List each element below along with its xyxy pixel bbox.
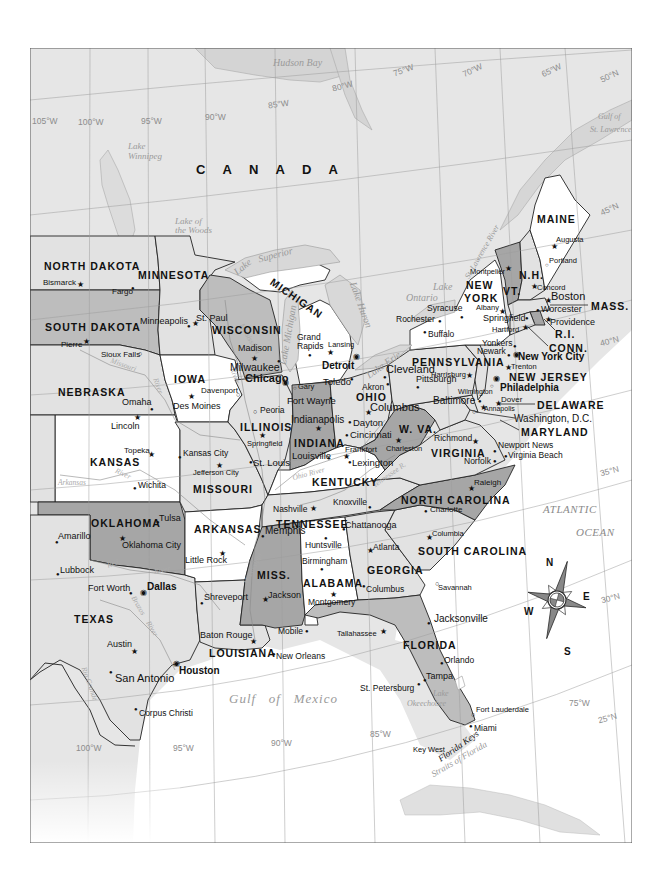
city-label-miami: Miami <box>474 724 497 733</box>
city-label-savannah: Savannah <box>438 584 472 592</box>
city-label-annapolis: Annapolis <box>484 405 515 412</box>
city-label-lincoln: Lincoln <box>111 422 140 431</box>
compass-east-label: E <box>583 591 590 602</box>
city-label-detroit: Detroit <box>322 361 354 371</box>
city-label-richmond: Richmond <box>434 434 472 443</box>
city-label-nashville: Nashville <box>273 505 308 514</box>
capital-star-icon: ★ <box>188 393 195 401</box>
capital-star-icon: ★ <box>327 349 334 357</box>
city-label-kansas-city: Kansas City <box>183 449 228 458</box>
city-label-grand-rapids-2: Rapids <box>297 342 323 351</box>
city-label-corpus-christi: Corpus Christi <box>139 709 193 718</box>
city-dot-icon: ● <box>424 508 428 514</box>
city-label-minneapolis: Minneapolis <box>140 317 188 326</box>
city-label-chicago: Chicago <box>245 373 288 384</box>
city-label-montpelier: Montpelier <box>470 268 505 276</box>
city-label-little-rock: Little Rock <box>185 556 227 565</box>
city-label-st-petersburg: St. Petersburg <box>360 684 414 693</box>
city-dot-icon: ● <box>525 315 529 321</box>
city-dot-icon: ● <box>493 448 497 454</box>
city-dot-icon: ● <box>178 454 182 460</box>
city-label-new-orleans: New Orleans <box>276 652 325 661</box>
compass-north-label: N <box>546 557 553 568</box>
major-city-icon: ◉ <box>493 375 500 383</box>
city-label-rochester: Rochester <box>396 315 435 324</box>
city-dot-icon: ● <box>368 504 372 510</box>
city-label-st-louis: St. Louis <box>253 458 290 468</box>
town-circle-icon: ○ <box>446 750 450 756</box>
city-label-wilmington: Wilmington <box>458 388 493 395</box>
town-circle-icon: ○ <box>253 408 257 415</box>
city-dot-icon: ● <box>386 381 390 387</box>
leader-lines <box>0 0 667 882</box>
city-label-san-antonio: San Antonio <box>115 673 174 684</box>
city-label-chattanooga: Chattanooga <box>345 521 397 530</box>
city-label-mobile: Mobile <box>278 627 303 636</box>
city-label-tampa: Tampa <box>426 672 453 681</box>
city-label-norfolk: Norfolk <box>464 457 491 466</box>
city-label-tulsa: Tulsa <box>159 514 181 523</box>
city-dot-icon: ● <box>507 352 511 358</box>
city-label-columbus-ga: Columbus <box>366 585 404 594</box>
city-label-dover: Dover <box>501 396 522 404</box>
city-dot-icon: ● <box>133 485 137 491</box>
city-dot-icon: ● <box>536 307 540 313</box>
city-label-yonkers: Yonkers <box>482 339 512 348</box>
capital-star-icon: ★ <box>310 505 317 513</box>
city-dot-icon: ● <box>305 628 309 634</box>
city-dot-icon: ● <box>423 329 427 335</box>
city-label-montgomery: Montgomery <box>308 598 355 607</box>
city-label-boston: Boston <box>551 291 585 302</box>
city-label-knoxville: Knoxville <box>333 498 367 507</box>
capital-star-icon: ★ <box>315 425 322 433</box>
city-label-dayton: Dayton <box>353 418 383 428</box>
city-dot-icon: ● <box>134 706 138 712</box>
city-label-toledo: Toledo <box>323 377 351 387</box>
town-circle-icon: ○ <box>471 711 475 718</box>
city-label-orlando: Orlando <box>444 656 474 665</box>
city-dot-icon: ● <box>417 681 421 687</box>
city-label-syracuse: Syracuse <box>427 304 462 313</box>
city-label-davenport: Davenport <box>201 387 238 395</box>
city-label-philadelphia: Philadelphia <box>500 383 559 393</box>
city-label-charleston: Charleston <box>386 445 422 453</box>
major-city-icon: ◉ <box>353 353 360 361</box>
city-label-madison: Madison <box>238 344 272 353</box>
city-label-columbia: Columbia <box>432 530 464 538</box>
city-label-jackson: Jackson <box>268 591 301 600</box>
city-dot-icon: ● <box>513 343 517 349</box>
city-label-pierre: Pierre <box>61 341 82 349</box>
compass-south-label: S <box>564 646 571 657</box>
city-label-shreveport: Shreveport <box>204 593 248 602</box>
city-dot-icon: ● <box>308 352 312 358</box>
city-label-harrisburg: Harrisburg <box>431 371 466 379</box>
city-label-birmingham: Birmingham <box>302 557 347 566</box>
city-label-topeka: Topeka <box>124 447 150 455</box>
city-dot-icon: ● <box>469 723 473 729</box>
city-label-tallahassee: Tallahassee <box>337 630 377 638</box>
city-label-des-moines: Des Moines <box>173 402 221 411</box>
city-label-jefferson-city: Jefferson City <box>193 469 239 477</box>
town-circle-icon: ○ <box>472 408 476 415</box>
city-dot-icon: ● <box>493 458 497 464</box>
capital-star-icon: ★ <box>466 372 473 380</box>
city-label-worcester: Worcester <box>541 305 582 314</box>
label-layer: C A N A D A 105°W 100°W 95°W 90°W 85°W 8… <box>0 0 667 882</box>
city-label-fort-worth: Fort Worth <box>88 584 130 593</box>
city-label-virginia-beach: Virginia Beach <box>508 451 563 460</box>
city-label-frankfort: Frankfort <box>345 446 377 454</box>
city-label-indianapolis: Indianapolis <box>291 415 344 425</box>
city-label-hartford: Hartford <box>492 326 519 334</box>
city-label-springfield-ma: Springfield <box>483 314 526 323</box>
city-label-houston: Houston <box>179 666 220 676</box>
city-label-raleigh: Raleigh <box>474 479 501 487</box>
city-label-new-york-city: New York City <box>518 352 584 362</box>
city-label-louisville: Louisville <box>292 451 331 461</box>
compass-west-label: W <box>524 606 533 617</box>
city-label-augusta: Augusta <box>556 236 584 244</box>
city-label-st-paul: St. Paul <box>196 314 228 323</box>
city-label-key-west: Key West <box>413 746 445 754</box>
capital-star-icon: ★ <box>83 338 90 346</box>
city-label-wichita: Wichita <box>138 481 166 490</box>
town-circle-icon: ○ <box>293 385 297 391</box>
